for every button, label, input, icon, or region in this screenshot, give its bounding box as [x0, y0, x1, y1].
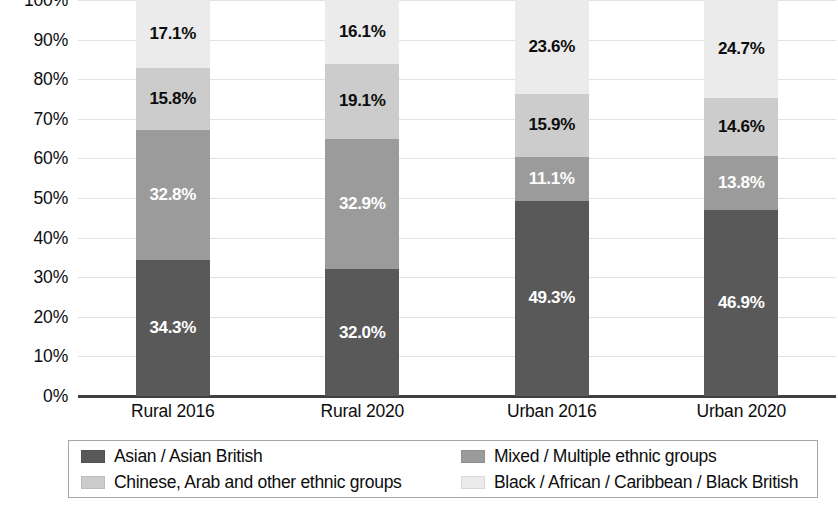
bar-segment[interactable]: 32.0% — [325, 269, 399, 396]
bar-segment[interactable]: 32.8% — [136, 130, 210, 260]
stacked-bar-chart: 100%90%80%70%60%50%40%30%20%10%0% 34.3%3… — [0, 0, 838, 506]
y-axis: 100%90%80%70%60%50%40%30%20%10%0% — [0, 0, 72, 400]
bar-segment-label: 24.7% — [718, 39, 765, 59]
bar-group: 49.3%11.1%15.9%23.6% — [515, 0, 589, 396]
bar-segment-label: 14.6% — [718, 117, 765, 137]
legend-item[interactable]: Asian / Asian British — [81, 446, 461, 467]
bar-segment-label: 49.3% — [528, 288, 575, 308]
plot-area: 100%90%80%70%60%50%40%30%20%10%0% 34.3%3… — [0, 0, 838, 432]
bar-segment-label: 11.1% — [529, 169, 575, 189]
x-axis-tick-label: Urban 2016 — [457, 401, 647, 422]
bar-segment-label: 23.6% — [528, 37, 575, 57]
bar-segment[interactable]: 23.6% — [515, 0, 589, 93]
y-axis-tick-label: 50% — [34, 188, 68, 209]
legend-label: Chinese, Arab and other ethnic groups — [114, 472, 402, 493]
bar-segment-label: 15.9% — [528, 115, 575, 135]
legend-label: Asian / Asian British — [114, 446, 262, 467]
bar-segment-label: 13.8% — [718, 173, 765, 193]
y-axis-tick-label: 90% — [34, 29, 68, 50]
bar-segment[interactable]: 46.9% — [704, 210, 778, 396]
y-axis-tick-label: 10% — [34, 346, 68, 367]
bar-segment-label: 32.8% — [149, 185, 196, 205]
bar-segment[interactable]: 49.3% — [515, 201, 589, 396]
bar-stack[interactable]: 46.9%13.8%14.6%24.7% — [704, 0, 778, 396]
y-axis-tick-label: 100% — [24, 0, 68, 11]
bar-segment[interactable]: 19.1% — [325, 64, 399, 140]
bar-group: 32.0%32.9%19.1%16.1% — [325, 0, 399, 396]
legend-swatch — [461, 476, 485, 489]
legend-swatch — [81, 476, 105, 489]
bar-segment[interactable]: 17.1% — [136, 0, 210, 68]
bar-segment-label: 16.1% — [339, 22, 386, 42]
chart-legend: Asian / Asian BritishMixed / Multiple et… — [68, 440, 818, 498]
y-axis-tick-label: 60% — [34, 148, 68, 169]
bar-segment-label: 19.1% — [339, 91, 386, 111]
legend-label: Black / African / Caribbean / Black Brit… — [494, 472, 798, 493]
bar-segment-label: 34.3% — [149, 318, 196, 338]
bar-segment[interactable]: 14.6% — [704, 98, 778, 156]
bar-segment[interactable]: 15.8% — [136, 68, 210, 131]
bar-stack[interactable]: 32.0%32.9%19.1%16.1% — [325, 0, 399, 396]
bar-segment[interactable]: 16.1% — [325, 0, 399, 64]
x-axis-tick-label: Rural 2016 — [78, 401, 268, 422]
legend-swatch — [81, 450, 105, 463]
bar-segment-label: 15.8% — [149, 89, 196, 109]
x-axis: Rural 2016Rural 2020Urban 2016Urban 2020 — [78, 401, 836, 431]
y-axis-tick-label: 40% — [34, 227, 68, 248]
x-axis-tick-label: Rural 2020 — [268, 401, 458, 422]
bar-segment[interactable]: 11.1% — [515, 157, 589, 201]
bar-segment[interactable]: 34.3% — [136, 260, 210, 396]
y-axis-tick-label: 70% — [34, 108, 68, 129]
bar-segment-label: 32.9% — [339, 194, 386, 214]
legend-item[interactable]: Chinese, Arab and other ethnic groups — [81, 472, 461, 493]
bars-layer: 34.3%32.8%15.8%17.1%32.0%32.9%19.1%16.1%… — [78, 0, 836, 396]
bar-group: 46.9%13.8%14.6%24.7% — [704, 0, 778, 396]
bar-segment-label: 32.0% — [339, 323, 386, 343]
bar-segment-label: 46.9% — [718, 293, 765, 313]
bar-group: 34.3%32.8%15.8%17.1% — [136, 0, 210, 396]
legend-label: Mixed / Multiple ethnic groups — [494, 446, 717, 467]
y-axis-tick-label: 20% — [34, 306, 68, 327]
x-axis-tick-label: Urban 2020 — [647, 401, 837, 422]
bar-segment[interactable]: 32.9% — [325, 139, 399, 269]
legend-swatch — [461, 450, 485, 463]
bar-segment[interactable]: 13.8% — [704, 156, 778, 211]
bar-segment[interactable]: 15.9% — [515, 94, 589, 157]
bar-stack[interactable]: 49.3%11.1%15.9%23.6% — [515, 0, 589, 396]
y-axis-tick-label: 30% — [34, 267, 68, 288]
bar-segment[interactable]: 24.7% — [704, 0, 778, 98]
bar-stack[interactable]: 34.3%32.8%15.8%17.1% — [136, 0, 210, 396]
bar-segment-label: 17.1% — [149, 24, 196, 44]
y-axis-tick-label: 0% — [43, 386, 68, 407]
legend-item[interactable]: Mixed / Multiple ethnic groups — [461, 446, 817, 467]
legend-item[interactable]: Black / African / Caribbean / Black Brit… — [461, 472, 817, 493]
y-axis-tick-label: 80% — [34, 69, 68, 90]
